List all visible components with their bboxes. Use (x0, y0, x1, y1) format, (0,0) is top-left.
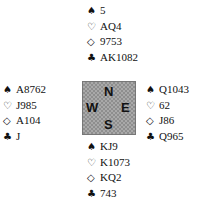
compass-box: N W E S (82, 81, 136, 135)
south-diamonds-cards: KQ2 (100, 171, 121, 183)
club-icon: ♣ (87, 187, 100, 202)
west-clubs-cards: J (16, 130, 20, 142)
diamond-icon: ◇ (87, 35, 100, 50)
east-hearts: ♡62 (146, 98, 189, 114)
west-clubs: ♣J (3, 129, 46, 145)
club-icon: ♣ (3, 130, 16, 145)
south-clubs: ♣743 (87, 186, 130, 202)
north-hearts: ♡AQ4 (87, 19, 138, 35)
diamond-icon: ◇ (146, 114, 159, 129)
east-clubs-cards: Q965 (159, 130, 183, 142)
spade-icon: ♠ (146, 83, 159, 98)
compass-south: S (104, 117, 113, 132)
west-hearts-cards: J985 (16, 99, 37, 111)
compass-east: E (121, 100, 130, 115)
heart-icon: ♡ (146, 99, 159, 114)
south-hand: ♠KJ9 ♡K1073 ◇KQ2 ♣743 (87, 139, 130, 201)
club-icon: ♣ (146, 130, 159, 145)
west-diamonds: ◇A104 (3, 113, 46, 129)
north-diamonds-cards: 9753 (100, 35, 122, 47)
spade-icon: ♠ (3, 83, 16, 98)
north-hand: ♠5 ♡AQ4 ◇9753 ♣AK1082 (87, 3, 138, 65)
west-hearts: ♡J985 (3, 98, 46, 114)
east-hearts-cards: 62 (159, 99, 170, 111)
diamond-icon: ◇ (3, 114, 16, 129)
north-spades-cards: 5 (100, 4, 106, 16)
club-icon: ♣ (87, 51, 100, 66)
north-clubs-cards: AK1082 (100, 51, 138, 63)
heart-icon: ♡ (87, 20, 100, 35)
west-spades-cards: A8762 (16, 83, 46, 95)
north-hearts-cards: AQ4 (100, 20, 121, 32)
spade-icon: ♠ (87, 4, 100, 19)
compass-north: N (104, 84, 113, 99)
heart-icon: ♡ (3, 99, 16, 114)
diamond-icon: ◇ (87, 171, 100, 186)
east-spades: ♠Q1043 (146, 82, 189, 98)
west-hand: ♠A8762 ♡J985 ◇A104 ♣J (3, 82, 46, 144)
east-diamonds-cards: J86 (159, 114, 174, 126)
east-diamonds: ◇J86 (146, 113, 189, 129)
south-clubs-cards: 743 (100, 187, 117, 199)
south-hearts: ♡K1073 (87, 155, 130, 171)
west-spades: ♠A8762 (3, 82, 46, 98)
spade-icon: ♠ (87, 140, 100, 155)
south-hearts-cards: K1073 (100, 156, 130, 168)
south-spades-cards: KJ9 (100, 140, 118, 152)
west-diamonds-cards: A104 (16, 114, 40, 126)
north-spades: ♠5 (87, 3, 138, 19)
north-diamonds: ◇9753 (87, 34, 138, 50)
south-diamonds: ◇KQ2 (87, 170, 130, 186)
compass-west: W (86, 100, 98, 115)
north-clubs: ♣AK1082 (87, 50, 138, 66)
east-clubs: ♣Q965 (146, 129, 189, 145)
south-spades: ♠KJ9 (87, 139, 130, 155)
heart-icon: ♡ (87, 156, 100, 171)
east-spades-cards: Q1043 (159, 83, 189, 95)
east-hand: ♠Q1043 ♡62 ◇J86 ♣Q965 (146, 82, 189, 144)
